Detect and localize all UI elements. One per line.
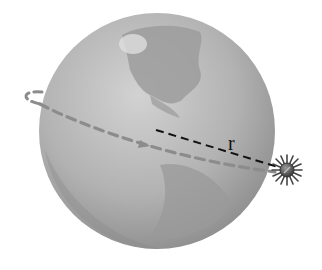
radius-label: r (228, 132, 235, 154)
orbit-back (26, 92, 42, 104)
satellite (272, 155, 302, 185)
orbit-diagram: r (0, 0, 322, 270)
